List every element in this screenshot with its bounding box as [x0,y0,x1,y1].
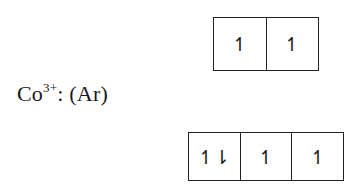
ion-label: Co3+: (Ar) [17,80,108,107]
orbital-box: ↿ [214,18,267,70]
ion-charge: 3+ [43,80,57,95]
orbital-box: ↿ [267,18,319,70]
orbital-row-top: ↿ ↿ [213,17,319,71]
element-symbol: Co [17,81,43,106]
orbital-box: ↿⇂ [189,133,241,180]
orbital-box: ↿ [292,133,343,180]
orbital-row-bottom: ↿⇂ ↿ ↿ [188,132,344,181]
orbital-box: ↿ [241,133,293,180]
core-config: : (Ar) [57,81,108,106]
